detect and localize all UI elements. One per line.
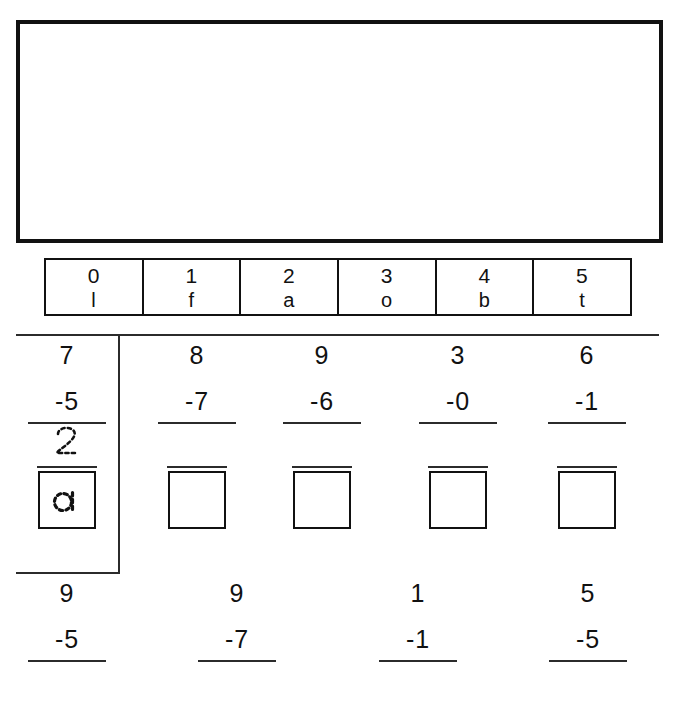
answer-line	[167, 466, 227, 468]
problem-row2-1: 9 -5	[13, 578, 121, 692]
subtrahend-row: -5	[13, 386, 121, 416]
minuend: 9	[268, 340, 376, 370]
subtrahend: -6	[310, 386, 334, 416]
minuend: 3	[404, 340, 512, 370]
example-bracket-bottom-line	[16, 572, 120, 574]
code-letter-box[interactable]	[293, 471, 351, 529]
code-key-cell-2: 2 a	[241, 260, 339, 314]
subtrahend: -7	[185, 386, 209, 416]
code-key-cell-5: 5 t	[534, 260, 630, 314]
worksheet-page: 0 l 1 f 2 a 3 o 4 b 5 t 7 -5	[0, 0, 675, 712]
code-key-letter: t	[579, 288, 585, 312]
code-key-digit: 3	[381, 263, 393, 288]
minuend: 6	[533, 340, 641, 370]
code-key-cell-1: 1 f	[144, 260, 242, 314]
code-key-digit: 5	[576, 263, 588, 288]
subtrahend: -5	[576, 624, 600, 654]
subtrahend-row: -5	[13, 624, 121, 654]
subtrahend: -5	[55, 624, 79, 654]
code-key-letter: f	[188, 288, 194, 312]
minuend: 1	[364, 578, 472, 608]
problem-row1-5: 6 -1	[533, 340, 641, 529]
answer-line	[557, 466, 617, 468]
subtrahend: -1	[575, 386, 599, 416]
code-letter-box[interactable]	[168, 471, 226, 529]
subtrahend: -7	[225, 624, 249, 654]
answer-digit-blank[interactable]	[533, 424, 641, 458]
problem-row1-2: 8 -7	[143, 340, 251, 529]
code-key-letter: a	[283, 288, 295, 312]
subtrahend: -0	[446, 386, 470, 416]
answer-line	[292, 466, 352, 468]
problem-row2-2: 9 -7	[183, 578, 291, 692]
minuend: 8	[143, 340, 251, 370]
subtrahend-row: -1	[364, 624, 472, 654]
answer-digit-dotted[interactable]	[13, 424, 121, 458]
code-key-cell-0: 0 l	[46, 260, 144, 314]
answer-digit-blank[interactable]	[13, 662, 121, 692]
code-key-cell-3: 3 o	[339, 260, 437, 314]
code-key-digit: 2	[283, 263, 295, 288]
answer-digit-blank[interactable]	[404, 424, 512, 458]
code-letter-box[interactable]	[429, 471, 487, 529]
subtrahend-row: -5	[534, 624, 642, 654]
answer-digit-blank[interactable]	[268, 424, 376, 458]
minuend: 9	[13, 578, 121, 608]
problem-row2-3: 1 -1	[364, 578, 472, 692]
minuend: 5	[534, 578, 642, 608]
subtrahend: -5	[55, 386, 79, 416]
answer-digit-blank[interactable]	[183, 662, 291, 692]
subtrahend-row: -0	[404, 386, 512, 416]
code-key-letter: b	[479, 288, 491, 312]
problem-row1-4: 3 -0	[404, 340, 512, 529]
answer-line	[428, 466, 488, 468]
answer-digit-blank[interactable]	[534, 662, 642, 692]
answer-digit-blank[interactable]	[364, 662, 472, 692]
code-key-letter: l	[91, 288, 96, 312]
answer-line	[37, 466, 97, 468]
code-letter-box[interactable]	[38, 471, 96, 529]
subtrahend-row: -1	[533, 386, 641, 416]
subtrahend-row: -7	[143, 386, 251, 416]
code-key-digit: 0	[88, 263, 100, 288]
subtrahend-row: -6	[268, 386, 376, 416]
code-key-table: 0 l 1 f 2 a 3 o 4 b 5 t	[44, 258, 632, 316]
minuend: 9	[183, 578, 291, 608]
problem-row2-4: 5 -5	[534, 578, 642, 692]
code-key-digit: 1	[185, 263, 197, 288]
answer-digit-blank[interactable]	[143, 424, 251, 458]
subtrahend: -1	[406, 624, 430, 654]
subtrahend-row: -7	[183, 624, 291, 654]
code-key-letter: o	[381, 288, 393, 312]
work-area-box[interactable]	[16, 20, 663, 243]
code-letter-box[interactable]	[558, 471, 616, 529]
letter-a-dotted-glyph	[50, 485, 84, 515]
problem-row1-3: 9 -6	[268, 340, 376, 529]
problem-row1-1: 7 -5	[13, 340, 121, 529]
section-divider-line	[16, 334, 659, 336]
code-key-digit: 4	[478, 263, 490, 288]
code-key-cell-4: 4 b	[437, 260, 535, 314]
minuend: 7	[13, 340, 121, 370]
